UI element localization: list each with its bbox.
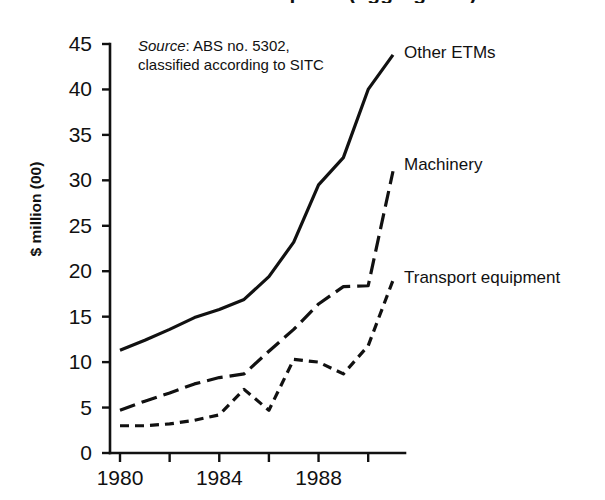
x-tick-label: 1980 [80, 467, 160, 488]
y-tick-label: 20 [48, 260, 92, 281]
series-label-other-etms: Other ETMs [404, 44, 496, 61]
chart-figure: merchandise imports (aggregated) $ milli… [0, 0, 605, 500]
y-tick-label: 25 [48, 215, 92, 236]
y-tick-label: 15 [48, 306, 92, 327]
y-tick-label: 45 [48, 33, 92, 54]
x-tick-label: 1984 [179, 467, 259, 488]
series-line-transport-equipment [120, 280, 393, 425]
y-tick-label: 30 [48, 169, 92, 190]
series-line-machinery [120, 171, 393, 410]
y-tick-label: 5 [48, 397, 92, 418]
y-tick-label: 10 [48, 351, 92, 372]
y-tick-label: 35 [48, 124, 92, 145]
series-line-other-etms [120, 55, 393, 350]
series-label-transport-equipment: Transport equipment [404, 269, 560, 286]
series-group [120, 55, 393, 426]
plot-area [0, 0, 605, 500]
series-label-machinery: Machinery [404, 156, 482, 173]
y-tick-label: 40 [48, 78, 92, 99]
x-tick-label: 1988 [279, 467, 359, 488]
y-tick-label: 0 [48, 442, 92, 463]
